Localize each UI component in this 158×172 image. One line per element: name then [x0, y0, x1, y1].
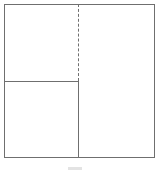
region-bottom-left — [5, 82, 78, 156]
vertical-dashed-divider — [78, 4, 79, 81]
horizontal-divider — [4, 81, 78, 82]
region-right — [79, 5, 153, 156]
diagram-caption — [68, 167, 82, 170]
vertical-solid-divider — [78, 81, 79, 157]
region-top-left — [5, 5, 78, 81]
